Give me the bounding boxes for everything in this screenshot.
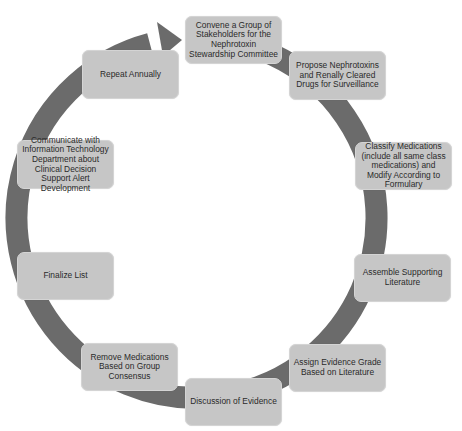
step-label: Communicate with Information Technology … [21, 136, 110, 194]
step-remove-medications: Remove Medications Based on Group Consen… [81, 343, 178, 391]
step-finalize-list: Finalize List [17, 252, 114, 300]
step-label: Convene a Group of Stakeholders for the … [189, 21, 278, 59]
step-repeat-annually: Repeat Annually [82, 50, 179, 99]
step-assemble-literature: Assemble Supporting Literature [354, 254, 451, 302]
step-label: Propose Nephrotoxins and Renally Cleared… [293, 61, 382, 90]
step-convene-stakeholders: Convene a Group of Stakeholders for the … [185, 16, 282, 64]
step-label: Assign Evidence Grade Based on Literatur… [293, 358, 382, 377]
step-propose-nephrotoxins: Propose Nephrotoxins and Renally Cleared… [289, 51, 386, 100]
cycle-ring-arrow [0, 0, 462, 431]
step-label: Finalize List [43, 271, 87, 281]
step-label: Discussion of Evidence [190, 397, 277, 407]
step-label: Repeat Annually [100, 70, 161, 80]
step-classify-medications: Classify Medications (include all same c… [355, 142, 452, 190]
step-assign-evidence-grade: Assign Evidence Grade Based on Literatur… [289, 344, 386, 392]
step-label: Classify Medications (include all same c… [359, 142, 448, 190]
step-label: Assemble Supporting Literature [358, 268, 447, 287]
step-discussion-of-evidence: Discussion of Evidence [185, 378, 282, 426]
step-communicate-it: Communicate with Information Technology … [17, 140, 114, 189]
step-label: Remove Medications Based on Group Consen… [85, 353, 174, 382]
